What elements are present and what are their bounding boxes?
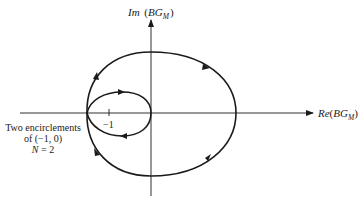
tick-label-minus-one: −1	[103, 119, 114, 130]
encirclement-note-line1: Two encirclements	[5, 122, 81, 133]
nyquist-diagram: Im (BGM) Re(BGM) −1 Two encirclements of…	[0, 0, 361, 203]
inner-loop	[87, 92, 151, 136]
arrow-inner-bottom-icon	[120, 133, 127, 139]
y-axis-label: Im (BGM)	[127, 6, 174, 21]
x-axis-label: Re(BGM)	[317, 107, 358, 122]
arrow-inner-top-icon	[118, 89, 125, 95]
direction-arrows	[93, 64, 211, 161]
encirclement-note-line3: N = 2	[31, 144, 54, 155]
